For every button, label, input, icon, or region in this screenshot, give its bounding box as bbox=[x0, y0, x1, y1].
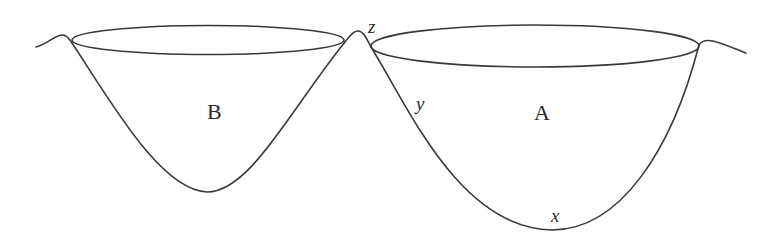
basin-a-bowl bbox=[371, 45, 699, 230]
basin-diagram: B A z y x bbox=[0, 0, 776, 243]
left-ground-line bbox=[36, 35, 72, 47]
basin-b-rim bbox=[72, 26, 344, 55]
point-label-x: x bbox=[551, 206, 559, 225]
diagram-drawing bbox=[0, 0, 776, 243]
point-label-z: z bbox=[368, 17, 375, 36]
right-ground-line bbox=[699, 40, 746, 53]
point-label-y: y bbox=[416, 94, 424, 113]
basin-a-rim bbox=[371, 25, 699, 67]
region-label-a: A bbox=[534, 102, 550, 124]
region-label-b: B bbox=[207, 101, 222, 123]
